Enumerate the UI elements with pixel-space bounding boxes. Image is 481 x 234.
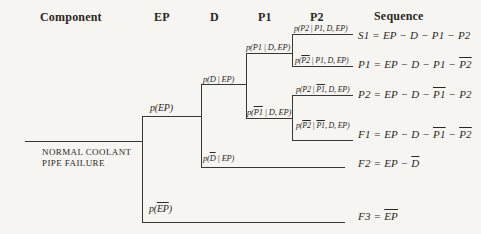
tree-fork-root	[142, 116, 143, 223]
branch-label-p-dbar-given-ep: p(D | EP)	[203, 153, 234, 163]
tree-fork-p1bar	[292, 95, 293, 141]
branch-label-p-epbar: p(EP)	[149, 203, 172, 214]
tree-line-epbar-branch	[142, 222, 345, 223]
sequence-f3: F3 = EP	[358, 210, 398, 222]
branch-label-p-p2-given-p1-d-ep: p(P2 | P1, D, EP)	[294, 24, 347, 33]
tree-fork-p1	[292, 34, 293, 67]
initiating-event-label: NORMAL COOLANT PIPE FAILURE	[42, 147, 132, 168]
column-header-component: Component	[40, 10, 102, 25]
branch-label-p-p2-given-p1bar-d-ep: p(P2 | P1, D, EP)	[296, 85, 349, 94]
initiating-event-line2: PIPE FAILURE	[42, 158, 132, 169]
tree-line-dbar-branch	[201, 167, 345, 168]
tree-line-d-branch	[201, 84, 247, 85]
tree-line-p2bar-branch	[292, 66, 353, 67]
tree-line-p2-after-p1bar-branch	[292, 95, 353, 96]
tree-line-p2bar-after-p1bar-branch	[292, 140, 353, 141]
sequence-f2: F2 = EP − D	[358, 157, 419, 169]
branch-label-p-p2bar-given-p1bar-d-ep: p(P2 | P1, D, EP)	[296, 121, 350, 130]
column-header-sequence: Sequence	[374, 9, 424, 24]
sequence-s1: S1 = EP − D − P1 − P2	[358, 29, 471, 41]
tree-line-p2-success-branch	[292, 34, 353, 35]
branch-label-p-ep: p(EP)	[150, 102, 173, 113]
tree-fork-ep	[201, 84, 202, 168]
sequence-p1: P1 = EP − D − P1 − P2	[358, 58, 472, 70]
initiating-event-line1: NORMAL COOLANT	[42, 147, 132, 158]
sequence-p2: P2 = EP − D − P1 − P2	[358, 88, 472, 100]
column-header-ep: EP	[154, 10, 170, 25]
event-tree-diagram: Component EP D P1 P2 Sequence NORMAL COO…	[0, 0, 481, 234]
branch-label-p-p1bar-given-d-ep: p(P1 | D, EP)	[247, 107, 291, 117]
branch-label-p-p2bar-given-p1-d-ep: p(P2 | P1, D, EP)	[295, 56, 348, 65]
branch-label-p-p1-given-d-ep: p(P1 | D, EP)	[246, 42, 290, 52]
column-header-d: D	[210, 10, 219, 25]
column-header-p2: P2	[310, 10, 324, 25]
tree-line-root-horizontal	[25, 141, 142, 142]
branch-label-p-d-given-ep: p(D | EP)	[203, 74, 234, 84]
column-header-p1: P1	[258, 10, 272, 25]
sequence-f1: F1 = EP − D − P1 − P2	[358, 128, 472, 140]
tree-line-ep-branch	[142, 116, 202, 117]
tree-line-p1-branch	[246, 53, 293, 54]
tree-line-p1bar-branch	[246, 118, 293, 119]
